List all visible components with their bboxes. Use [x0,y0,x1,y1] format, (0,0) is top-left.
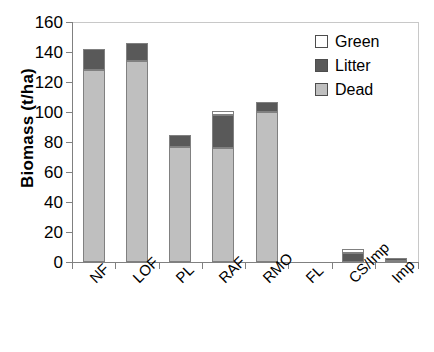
legend-item-litter: Litter [315,55,427,76]
bar-segment-green [342,249,364,254]
bar-segment-dead [126,61,148,262]
y-tick-60 [66,172,72,173]
y-tick-100 [66,112,72,113]
x-axis-label-fl: FL [302,262,326,286]
legend-label-dead: Dead [335,82,373,98]
y-tick-label-140: 140 [35,44,63,61]
y-tick-160 [66,22,72,23]
y-tick-40 [66,202,72,203]
y-tick-20 [66,232,72,233]
legend-label-green: Green [335,34,379,50]
x-tick-8 [418,263,419,269]
bar-segment-dead [169,147,191,263]
bar-nf[interactable] [83,49,105,262]
legend-swatch-dead-icon [315,83,328,96]
y-tick-label-20: 20 [44,224,63,241]
x-tick-1 [115,263,116,269]
y-tick-80 [66,142,72,143]
x-tick-6 [332,263,333,269]
legend-swatch-green-icon [315,35,328,48]
bar-segment-litter [212,115,234,148]
bar-raf[interactable] [212,111,234,263]
bar-segment-litter [256,102,278,113]
x-axis-label-pl: PL [172,261,197,286]
legend-label-litter: Litter [335,58,371,74]
x-tick-3 [202,263,203,269]
bar-segment-green [212,111,234,116]
y-tick-label-60: 60 [44,164,63,181]
bar-rmo[interactable] [256,102,278,263]
plot-frame-top [72,22,419,23]
bar-segment-dead [83,70,105,262]
bar-segment-dead [256,112,278,262]
y-tick-label-80: 80 [44,134,63,151]
bar-segment-litter [169,135,191,147]
y-tick-label-160: 160 [35,14,63,31]
bar-segment-litter [83,49,105,70]
bar-pl[interactable] [169,135,191,263]
y-axis-line [72,22,73,263]
legend-item-dead: Dead [315,79,427,100]
y-tick-120 [66,82,72,83]
x-tick-0 [72,263,73,269]
bar-segment-dead [212,148,234,262]
y-tick-label-0: 0 [54,254,63,271]
bar-segment-litter [126,43,148,61]
y-tick-140 [66,52,72,53]
biomass-stacked-bar-chart: Biomass (t/ha) 020406080100120140160 NFL… [0,0,434,352]
legend: Green Litter Dead [315,31,427,103]
y-tick-label-40: 40 [44,194,63,211]
y-tick-label-100: 100 [35,104,63,121]
bar-lof[interactable] [126,43,148,262]
legend-item-green: Green [315,31,427,52]
x-axis-label-nf: NF [86,260,112,286]
y-tick-label-120: 120 [35,74,63,91]
y-axis-title: Biomass (t/ha) [18,38,38,218]
legend-swatch-litter-icon [315,59,328,72]
